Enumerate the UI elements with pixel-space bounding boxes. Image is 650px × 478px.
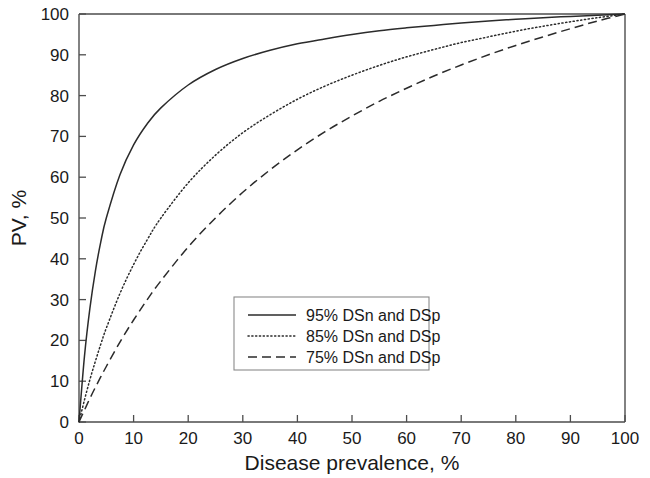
x-tick-label-100: 100: [611, 429, 639, 448]
x-axis-title: Disease prevalence, %: [245, 451, 460, 474]
x-tick-label-50: 50: [343, 429, 362, 448]
pv-prevalence-line-chart: 0102030405060708090100 01020304050607080…: [0, 0, 650, 478]
chart-figure: 0102030405060708090100 01020304050607080…: [0, 0, 650, 478]
y-axis-title: PV, %: [7, 190, 30, 246]
legend-label-1: 85% DSn and DSp: [306, 328, 440, 345]
x-tick-label-70: 70: [452, 429, 471, 448]
y-tick-label-90: 90: [50, 46, 69, 65]
y-tick-label-10: 10: [50, 372, 69, 391]
y-tick-label-0: 0: [60, 413, 69, 432]
y-tick-label-60: 60: [50, 168, 69, 187]
legend: 95% DSn and DSp85% DSn and DSp75% DSn an…: [234, 297, 440, 370]
y-tick-label-40: 40: [50, 250, 69, 269]
y-tick-label-100: 100: [41, 5, 69, 24]
x-axis-tick-labels: 0102030405060708090100: [74, 429, 639, 448]
legend-label-2: 75% DSn and DSp: [306, 349, 440, 366]
x-tick-label-0: 0: [74, 429, 83, 448]
x-tick-label-10: 10: [124, 429, 143, 448]
x-axis-ticks: [79, 415, 625, 422]
y-tick-label-30: 30: [50, 291, 69, 310]
legend-label-0: 95% DSn and DSp: [306, 307, 440, 324]
y-tick-label-50: 50: [50, 209, 69, 228]
y-tick-label-20: 20: [50, 331, 69, 350]
x-tick-label-90: 90: [561, 429, 580, 448]
y-axis-tick-labels: 0102030405060708090100: [41, 5, 69, 432]
x-tick-label-30: 30: [233, 429, 252, 448]
x-tick-label-20: 20: [179, 429, 198, 448]
x-tick-label-40: 40: [288, 429, 307, 448]
y-axis-ticks: [79, 14, 86, 422]
y-tick-label-80: 80: [50, 87, 69, 106]
x-tick-label-80: 80: [506, 429, 525, 448]
x-tick-label-60: 60: [397, 429, 416, 448]
y-tick-label-70: 70: [50, 127, 69, 146]
